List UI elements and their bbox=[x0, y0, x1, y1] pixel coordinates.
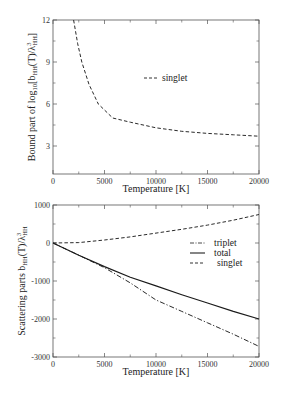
top-x-axis-label: Temperature [K] bbox=[123, 183, 190, 194]
figure-canvas: 0500010000150002000036912 singlet Temper… bbox=[0, 0, 282, 396]
x-tick-label: 20000 bbox=[249, 177, 269, 186]
top-axis-ticks: 0500010000150002000036912 bbox=[42, 16, 269, 186]
top-y-axis-label: Bound part of log10[bHH(T)/λ3HH] bbox=[25, 33, 38, 161]
bottom-y-axis-label: Scattering parts bHH(T)/λ3HH bbox=[15, 226, 28, 336]
x-tick-label: 20000 bbox=[249, 360, 269, 369]
y-tick-label: -1000 bbox=[31, 277, 50, 286]
bottom-legend: triplet total singlet bbox=[190, 238, 243, 268]
y-tick-label: -2000 bbox=[31, 315, 50, 324]
y-tick-label: 0 bbox=[46, 239, 50, 248]
top-plot: 0500010000150002000036912 singlet Temper… bbox=[25, 16, 269, 194]
y-tick-label: 12 bbox=[42, 16, 50, 25]
legend-label-triplet: triplet bbox=[214, 238, 237, 248]
legend-label-total: total bbox=[214, 248, 231, 258]
x-tick-label: 0 bbox=[51, 177, 55, 186]
x-tick-label: 5000 bbox=[97, 177, 113, 186]
bottom-plot: 05000100001500020000-3000-2000-100001000… bbox=[15, 201, 269, 377]
bottom-series bbox=[53, 215, 259, 347]
bottom-axis-ticks: 05000100001500020000-3000-2000-100001000 bbox=[31, 201, 269, 369]
x-tick-label: 5000 bbox=[97, 360, 113, 369]
top-plot-frame bbox=[53, 20, 259, 174]
x-tick-label: 15000 bbox=[198, 360, 218, 369]
y-tick-label: -3000 bbox=[31, 353, 50, 362]
y-tick-label: 6 bbox=[46, 100, 50, 109]
y-tick-label: 3 bbox=[46, 142, 50, 151]
bottom-plot-frame bbox=[53, 205, 259, 357]
x-tick-label: 15000 bbox=[198, 177, 218, 186]
legend-label-singlet: singlet bbox=[217, 258, 243, 268]
y-tick-label: 1000 bbox=[34, 201, 50, 210]
bottom-x-axis-label: Temperature [K] bbox=[123, 366, 190, 377]
y-tick-label: 9 bbox=[46, 58, 50, 67]
legend-label-singlet: singlet bbox=[162, 73, 188, 83]
x-tick-label: 0 bbox=[51, 360, 55, 369]
top-legend: singlet bbox=[144, 73, 188, 83]
